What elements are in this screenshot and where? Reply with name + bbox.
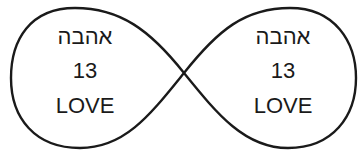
left-hebrew-text: אהבה (40, 26, 130, 48)
right-love-text: LOVE (238, 95, 328, 117)
right-hebrew-text: אהבה (238, 26, 328, 48)
left-love-text: LOVE (40, 95, 130, 117)
left-number-text: 13 (40, 60, 130, 82)
infinity-diagram: אהבה 13 LOVE אהבה 13 LOVE (0, 0, 359, 154)
right-number-text: 13 (238, 60, 328, 82)
